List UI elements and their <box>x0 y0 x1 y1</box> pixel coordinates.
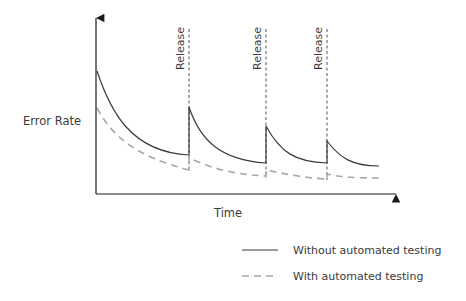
legend: Without automated testing With automated… <box>242 244 441 283</box>
x-axis-label: Time <box>213 206 242 220</box>
legend-label-with: With automated testing <box>293 270 423 283</box>
series-with-automated-testing <box>97 108 379 179</box>
error-rate-chart: Release Release Release Error Rate Time … <box>0 0 466 301</box>
release-label-1: Release <box>174 27 187 70</box>
y-axis-label: Error Rate <box>23 114 81 128</box>
release-label-3: Release <box>312 27 325 70</box>
legend-label-without: Without automated testing <box>293 244 441 257</box>
release-label-2: Release <box>251 27 264 70</box>
